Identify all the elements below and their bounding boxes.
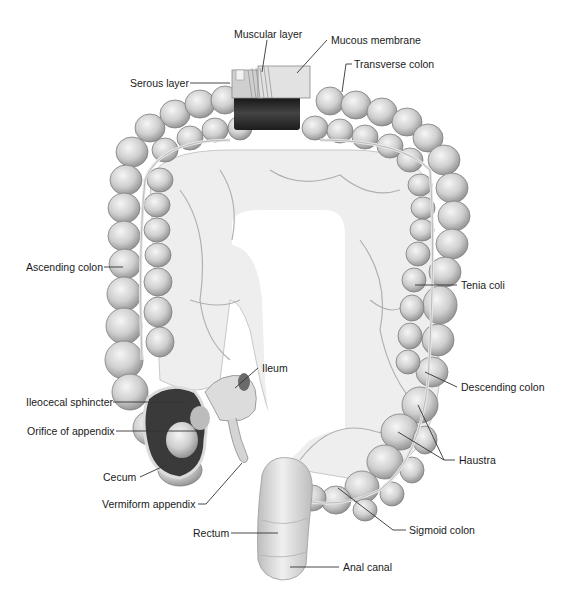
label-muscular-layer: Muscular layer <box>234 28 302 40</box>
colon-illustration <box>0 0 567 597</box>
label-serous-layer: Serous layer <box>130 77 189 89</box>
label-ileum: Ileum <box>262 362 288 374</box>
label-orifice-of-appendix: Orifice of appendix <box>27 425 115 437</box>
label-haustra: Haustra <box>459 454 496 466</box>
large-intestine-diagram: Muscular layer Mucous membrane Serous la… <box>0 0 567 597</box>
rectum <box>258 458 313 580</box>
label-vermiform-appendix: Vermiform appendix <box>102 498 195 510</box>
label-rectum: Rectum <box>193 527 229 539</box>
cecum <box>112 374 210 486</box>
label-ascending-colon: Ascending colon <box>26 261 103 273</box>
label-anal-canal: Anal canal <box>343 561 392 573</box>
label-cecum: Cecum <box>103 471 136 483</box>
label-mucous-membrane: Mucous membrane <box>331 34 421 46</box>
cross-section <box>232 66 310 130</box>
vermiform-appendix <box>228 418 248 463</box>
label-tenia-coli: Tenia coli <box>461 279 505 291</box>
label-descending-colon: Descending colon <box>461 381 544 393</box>
label-sigmoid-colon: Sigmoid colon <box>409 524 475 536</box>
label-ileocecal-sphincter: Ileocecal sphincter <box>26 396 113 408</box>
label-transverse-colon: Transverse colon <box>354 58 434 70</box>
